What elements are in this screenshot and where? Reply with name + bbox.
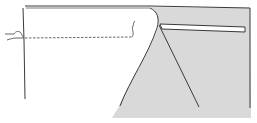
stitch-end-squiggle: [132, 21, 135, 37]
shaded-fabric-panel: [112, 7, 251, 118]
sewing-diagram: Sewing diagram: fabric panel folded over…: [0, 0, 257, 123]
panel-left-edge: [23, 8, 25, 99]
thread-tail-lower: [7, 38, 24, 40]
stitch-line: [25, 37, 132, 38]
thread-tail-upper: [5, 31, 24, 38]
diagram-canvas: [0, 0, 257, 123]
